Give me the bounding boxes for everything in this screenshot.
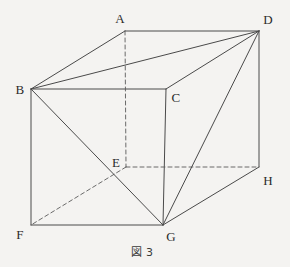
cuboid-diagram xyxy=(0,0,290,267)
edge-BD xyxy=(31,31,259,89)
figure-container: ABCDEFGH 図 3 xyxy=(0,0,290,267)
edge-layer xyxy=(31,31,259,225)
edge-EF xyxy=(31,167,126,225)
edge-AE xyxy=(125,31,126,167)
vertex-label-A: A xyxy=(115,12,125,25)
vertex-label-G: G xyxy=(166,230,176,243)
vertex-label-H: H xyxy=(263,174,273,187)
vertex-label-E: E xyxy=(112,156,120,169)
edge-AB xyxy=(31,31,125,89)
figure-caption: 図 3 xyxy=(131,243,154,259)
vertex-label-F: F xyxy=(16,228,23,241)
vertex-label-B: B xyxy=(16,83,25,96)
edge-BG xyxy=(31,89,163,225)
edge-CG xyxy=(163,89,166,225)
vertex-label-D: D xyxy=(263,13,273,26)
vertex-label-C: C xyxy=(172,91,181,104)
